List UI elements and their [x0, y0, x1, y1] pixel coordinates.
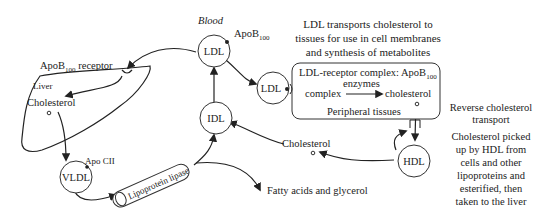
box-enzymes-label: enzymes [343, 78, 380, 89]
receptor-cup-icon [122, 70, 132, 73]
arrow-lipase-to-fatty-acids [196, 162, 260, 190]
svg-text:HDL: HDL [403, 156, 425, 167]
hdl-desc-line3: cells and other [460, 157, 522, 168]
arrow-hdl-to-cholesterol [320, 152, 394, 161]
arrow-lipase-to-idl [194, 135, 214, 165]
arrow-ldl-to-ldl-right [226, 60, 256, 84]
arrow-receptor-to-cholesterol [66, 76, 122, 96]
svg-text:IDL: IDL [207, 113, 225, 124]
cholesterol-mid-label: Cholesterol [282, 138, 330, 149]
liver-outline [22, 66, 151, 152]
apob100-ldl-label: ApoB100 [234, 28, 270, 42]
hdl-desc-line5: esterified, then [460, 183, 523, 194]
liver-cholesterol-label: Cholesterol [27, 97, 75, 108]
svg-text:LDL: LDL [261, 83, 281, 94]
node-idl: IDL [200, 102, 232, 134]
ldl-transport-line3: and synthesis of metabolites [306, 46, 430, 58]
blood-label: Blood [198, 15, 224, 26]
reverse-transport-line1: Reverse cholesterol [450, 102, 533, 113]
liver-cholesterol-dot-icon [47, 111, 51, 115]
box-complex-label: complex [305, 88, 342, 99]
cholesterol-dot-icon [415, 102, 419, 106]
svg-text:VLDL: VLDL [62, 172, 90, 183]
cholesterol-mid-dot-icon [311, 151, 315, 155]
ldl-transport-line1: LDL transports cholesterol to [303, 18, 433, 30]
node-ldl-top: LDL [198, 35, 230, 67]
ldl-transport-line2: tissues for use in cell membranes [295, 32, 441, 44]
hdl-desc-line6: taken to the liver [456, 196, 527, 207]
box-cholesterol-label: cholesterol [385, 88, 431, 99]
reverse-transport-line2: transport [472, 114, 509, 125]
node-hdl: HDL [398, 145, 430, 177]
box-peripheral-label: Peripheral tissues [327, 106, 401, 117]
hdl-desc-line2: up by HDL from [456, 144, 526, 155]
node-ldl-right: LDL [257, 72, 292, 104]
hdl-desc-line1: Cholesterol picked [451, 131, 531, 142]
arrow-hdl-loop [394, 131, 406, 150]
arrow-cholesterol-to-vldl [58, 112, 66, 160]
hdl-desc-line4: lipoproteins and [457, 170, 526, 181]
fatty-acids-label: Fatty acids and glycerol [267, 185, 368, 196]
liver-label: Liver [33, 81, 53, 91]
arrow-ldl-to-receptor [128, 49, 196, 68]
lipoprotein-lipase-enzyme: Lipoprotein lipase [110, 162, 191, 210]
svg-text:LDL: LDL [204, 46, 224, 57]
arrow-cholesterol-to-idl [230, 122, 284, 144]
apo-cii-label: Apo CII [85, 156, 115, 166]
lipoprotein-diagram: Lipoprotein lipase LDL-receptor complex:… [0, 0, 549, 221]
